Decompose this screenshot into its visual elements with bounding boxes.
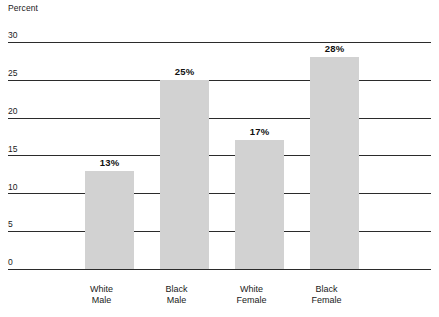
category-label-line-1: Black <box>280 284 373 295</box>
gridline-20 <box>8 118 431 119</box>
gridline-10 <box>8 193 431 194</box>
axis-baseline-0 <box>8 269 431 270</box>
category-label-black-female: Black Female <box>280 284 373 306</box>
bar-value-black-female: 28% <box>310 43 359 54</box>
bar-value-white-female: 17% <box>235 126 284 137</box>
bar-value-black-male: 25% <box>160 66 209 77</box>
y-axis-title: Percent <box>8 3 38 13</box>
bar-chart-figure: Percent 30 25 20 15 10 5 0 13% 25% 17% 2… <box>0 0 439 317</box>
gridline-25 <box>8 80 431 81</box>
gridline-30 <box>8 42 431 43</box>
gridline-5 <box>8 231 431 232</box>
plot-area: 13% 25% 17% 28% <box>8 42 431 269</box>
bar-black-female <box>310 57 359 269</box>
category-label-line-2: Female <box>280 295 373 306</box>
y-tick-label-30: 30 <box>8 31 18 40</box>
bar-white-male <box>85 171 134 269</box>
gridline-15 <box>8 155 431 156</box>
bar-white-female <box>235 140 284 269</box>
bar-black-male <box>160 80 209 269</box>
bar-value-white-male: 13% <box>85 157 134 168</box>
